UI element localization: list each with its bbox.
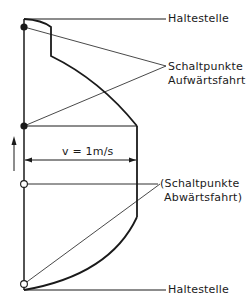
down-switch-point-1 bbox=[21, 181, 28, 188]
down-switch-point-2 bbox=[21, 281, 28, 288]
up-switch-leader-1 bbox=[24, 27, 166, 66]
bottom-stop-label: Haltestelle bbox=[168, 283, 229, 296]
up-switch-label-line1: Schaltpunkte bbox=[168, 60, 243, 73]
upward-profile-curve bbox=[24, 19, 137, 126]
up-switch-point-1 bbox=[20, 23, 27, 30]
down-switch-label-line2: Abwärtsfahrt) bbox=[164, 191, 242, 204]
up-switch-point-2 bbox=[20, 122, 27, 129]
up-switch-label-line2: Aufwärtsfahrt bbox=[168, 74, 246, 87]
arrowhead-right-icon bbox=[129, 158, 136, 163]
down-switch-leader-1 bbox=[24, 184, 160, 284]
speed-label: v = 1m/s bbox=[62, 145, 113, 158]
speed-profile-diagram bbox=[0, 0, 252, 307]
downward-profile-curve bbox=[24, 217, 137, 290]
arrowhead-left-icon bbox=[25, 158, 32, 163]
top-stop-label: Haltestelle bbox=[168, 12, 229, 25]
up-arrow-icon bbox=[12, 136, 17, 145]
up-switch-leader-2 bbox=[24, 66, 166, 126]
down-switch-label-line1: (Schaltpunkte bbox=[160, 177, 239, 190]
